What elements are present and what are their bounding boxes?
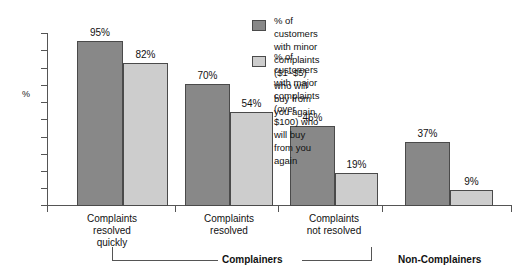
y-tick-60 bbox=[41, 102, 48, 103]
bar-minor-complaints-resolved bbox=[185, 84, 230, 206]
bar-value-70: 70% bbox=[185, 70, 230, 81]
y-tick-100 bbox=[41, 33, 48, 34]
bracket-label-non-complainers: Non-Complainers bbox=[398, 254, 481, 266]
y-tick-10 bbox=[41, 188, 48, 189]
bracket-complainers-right-tick bbox=[371, 247, 372, 260]
bar-major-complaints-resolved-quickly bbox=[123, 63, 168, 206]
bracket-label-complainers: Complainers bbox=[222, 254, 283, 266]
bar-major-non-complainers bbox=[450, 190, 493, 206]
bar-major-complaints-resolved bbox=[230, 112, 273, 206]
category-label-complaints-resolved-quickly: Complaints resolved quickly bbox=[62, 213, 162, 249]
legend-swatch-major-complaints bbox=[252, 56, 266, 67]
bar-value-82: 82% bbox=[123, 49, 168, 60]
bar-major-complaints-not-resolved bbox=[335, 173, 378, 206]
x-tick-2 bbox=[278, 206, 279, 212]
bar-value-54: 54% bbox=[230, 98, 273, 109]
y-tick-70 bbox=[41, 85, 48, 86]
bracket-complainers-left-rule bbox=[112, 260, 218, 261]
category-label-complaints-resolved: Complaints resolved bbox=[179, 213, 279, 237]
y-tick-30 bbox=[41, 154, 48, 155]
bar-chart: % 95% 82% 70% 54% 46% 19% 37% 9% Complai… bbox=[0, 0, 518, 278]
bar-value-37: 37% bbox=[405, 128, 450, 139]
x-tick-0 bbox=[47, 206, 48, 212]
x-tick-1 bbox=[175, 206, 176, 212]
bar-value-9: 9% bbox=[450, 176, 493, 187]
y-tick-20 bbox=[41, 171, 48, 172]
legend-swatch-minor-complaints bbox=[252, 20, 266, 31]
legend-label-major-complaints: % of customers with major complaints (ov… bbox=[274, 50, 319, 167]
bracket-complainers-right-rule bbox=[302, 260, 372, 261]
bar-minor-non-complainers bbox=[405, 142, 450, 206]
y-axis-label: % bbox=[22, 89, 30, 99]
x-tick-3 bbox=[382, 206, 383, 212]
bar-value-19: 19% bbox=[335, 159, 378, 170]
bar-value-95: 95% bbox=[77, 27, 123, 38]
x-tick-4 bbox=[511, 206, 512, 212]
category-label-complaints-not-resolved: Complaints not resolved bbox=[281, 213, 387, 237]
y-tick-80 bbox=[41, 68, 48, 69]
y-tick-50 bbox=[41, 119, 48, 120]
bracket-complainers-left-tick bbox=[112, 247, 113, 260]
y-tick-40 bbox=[41, 137, 48, 138]
y-tick-90 bbox=[41, 50, 48, 51]
bar-minor-complaints-resolved-quickly bbox=[77, 41, 123, 206]
